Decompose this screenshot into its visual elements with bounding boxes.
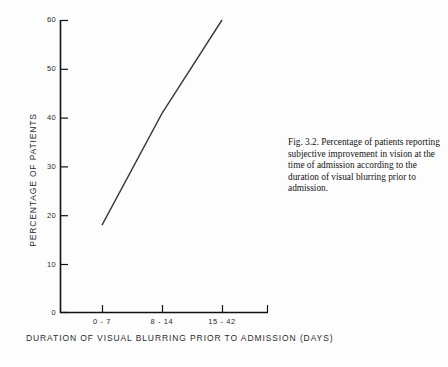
y-tick-label-60: 60	[34, 15, 56, 24]
y-tick-label-50: 50	[34, 64, 56, 73]
y-axis-title: PERCENTAGE OF PATIENTS	[28, 85, 38, 275]
figure-caption: Fig. 3.2. Percentage of patients reporti…	[288, 137, 440, 195]
x-axis-ticks	[103, 305, 268, 312]
x-axis-title: DURATION OF VISUAL BLURRING PRIOR TO ADM…	[26, 333, 333, 343]
y-tick-label-0: 0	[34, 308, 56, 317]
x-tick-label-0-7: 0 - 7	[72, 317, 132, 326]
y-axis-ticks	[61, 21, 68, 313]
x-tick-label-15-42: 15 - 42	[192, 317, 252, 326]
data-line-series-1	[102, 20, 222, 225]
x-tick-label-8-14: 8 - 14	[132, 317, 192, 326]
figure-container: 60 50 40 30 20 10 0 0 - 7 8 - 14 15 - 42…	[0, 0, 448, 367]
